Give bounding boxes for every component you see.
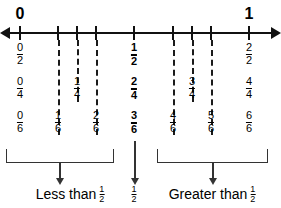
fraction-numerator: 4 xyxy=(170,110,176,122)
number-line-axis xyxy=(8,32,273,34)
endpoint-label-1: 1 xyxy=(245,6,254,22)
arrow-right-icon xyxy=(271,27,281,39)
tick-mark xyxy=(19,26,21,40)
greater-than-half-caption-text: Greater than xyxy=(169,187,248,201)
equal-to-half-caption-fraction: 12 xyxy=(131,185,136,204)
fraction-denominator: 4 xyxy=(189,88,195,101)
fraction-denominator: 4 xyxy=(74,88,80,101)
fraction-1-over-4: 14 xyxy=(74,76,80,100)
fraction-numerator: 3 xyxy=(189,76,195,88)
greater-than-half-caption: Greater than12 xyxy=(169,184,256,203)
fraction-5-over-6: 56 xyxy=(208,110,214,134)
less-than-half-caption-fraction: 12 xyxy=(99,185,104,204)
fraction-denominator: 6 xyxy=(246,122,252,135)
fraction-numerator: 1 xyxy=(55,110,61,122)
fraction-denominator: 6 xyxy=(17,122,23,135)
fraction-numerator: 2 xyxy=(131,76,137,88)
fraction-numerator: 6 xyxy=(246,110,252,122)
fraction-numerator: 1 xyxy=(250,185,255,194)
tick-mark xyxy=(57,26,59,40)
fraction-denominator: 4 xyxy=(131,88,137,102)
fraction-2-over-6: 26 xyxy=(93,110,99,134)
less-than-half-bracket xyxy=(6,149,114,163)
equal-to-half-caption: 12 xyxy=(131,184,136,203)
tick-mark xyxy=(172,26,174,40)
fraction-numerator: 0 xyxy=(17,76,23,88)
less-than-half-caption-text: Less than xyxy=(36,187,97,201)
fraction-6-over-6: 66 xyxy=(246,110,252,134)
fraction-denominator: 2 xyxy=(246,54,252,67)
fraction-2-over-4: 24 xyxy=(131,76,137,101)
fraction-1-over-6: 16 xyxy=(55,110,61,134)
fraction-numerator: 3 xyxy=(131,110,137,122)
fraction-number-line-figure: 01 021222041424344406162636465666 Less t… xyxy=(0,0,281,208)
fraction-numerator: 2 xyxy=(246,42,252,54)
equal-to-half-stem xyxy=(134,141,136,178)
fraction-0-over-4: 04 xyxy=(17,76,23,100)
fraction-denominator: 6 xyxy=(55,122,61,135)
tick-mark xyxy=(133,26,135,40)
fraction-numerator: 4 xyxy=(246,76,252,88)
fraction-numerator: 0 xyxy=(17,110,23,122)
fraction-denominator: 2 xyxy=(131,54,137,68)
tick-mark xyxy=(76,26,78,40)
fraction-numerator: 5 xyxy=(208,110,214,122)
less-than-half-stem xyxy=(59,162,61,178)
fraction-numerator: 1 xyxy=(131,185,136,194)
arrow-left-icon xyxy=(0,27,10,39)
greater-than-half-caption-fraction: 12 xyxy=(250,185,255,204)
fraction-0-over-2: 02 xyxy=(17,42,23,66)
tick-mark xyxy=(248,26,250,40)
fraction-numerator: 1 xyxy=(74,76,80,88)
tick-mark xyxy=(210,26,212,40)
greater-than-half-stem xyxy=(212,162,214,178)
fraction-denominator: 4 xyxy=(246,88,252,101)
fraction-numerator: 0 xyxy=(17,42,23,54)
fraction-numerator: 2 xyxy=(93,110,99,122)
endpoint-label-0: 0 xyxy=(16,6,25,22)
fraction-numerator: 1 xyxy=(131,42,137,54)
tick-mark xyxy=(191,26,193,40)
fraction-denominator: 4 xyxy=(17,88,23,101)
fraction-denominator: 2 xyxy=(250,194,255,204)
fraction-denominator: 6 xyxy=(93,122,99,135)
fraction-0-over-6: 06 xyxy=(17,110,23,134)
less-than-half-caption: Less than12 xyxy=(36,184,105,203)
fraction-denominator: 6 xyxy=(131,122,137,136)
fraction-2-over-2: 22 xyxy=(246,42,252,66)
fraction-denominator: 2 xyxy=(17,54,23,67)
fraction-denominator: 6 xyxy=(170,122,176,135)
fraction-denominator: 2 xyxy=(99,194,104,204)
fraction-1-over-2: 12 xyxy=(131,42,137,67)
fraction-numerator: 1 xyxy=(99,185,104,194)
fraction-denominator: 6 xyxy=(208,122,214,135)
fraction-3-over-6: 36 xyxy=(131,110,137,135)
fraction-denominator: 2 xyxy=(131,194,136,204)
fraction-4-over-4: 44 xyxy=(246,76,252,100)
greater-than-half-bracket xyxy=(157,149,268,163)
fraction-3-over-4: 34 xyxy=(189,76,195,100)
fraction-4-over-6: 46 xyxy=(170,110,176,134)
tick-mark xyxy=(95,26,97,40)
